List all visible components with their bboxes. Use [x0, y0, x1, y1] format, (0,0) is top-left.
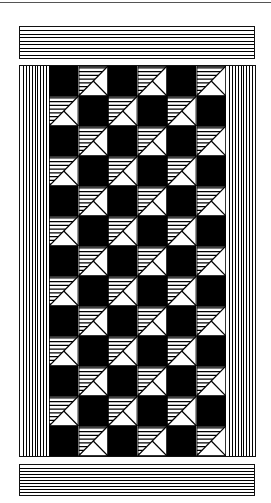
left-hatched-bar — [20, 66, 49, 456]
bottom-hatched-bar — [19, 464, 255, 496]
checkerboard-grid — [49, 66, 226, 456]
top-hatched-bar — [19, 26, 255, 59]
top-rule-line — [0, 2, 271, 3]
right-hatched-bar — [226, 66, 255, 456]
pattern-panel — [19, 65, 256, 457]
